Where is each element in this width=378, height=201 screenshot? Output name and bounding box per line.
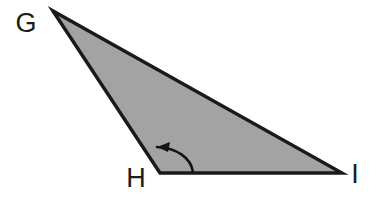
vertex-label-h: H — [126, 163, 146, 193]
geometry-figure: G H I — [0, 0, 378, 201]
triangle-diagram-canvas: G H I — [0, 0, 378, 201]
vertex-label-i: I — [351, 159, 359, 189]
vertex-label-g: G — [15, 8, 36, 38]
